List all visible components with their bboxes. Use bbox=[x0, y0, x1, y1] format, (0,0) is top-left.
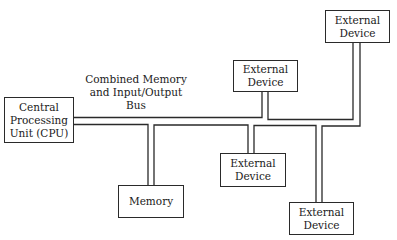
cpu-label-line: Unit (CPU) bbox=[10, 127, 68, 140]
device-label-line: External bbox=[230, 157, 275, 170]
device-label-line: External bbox=[299, 206, 344, 219]
cpu-box: Central Processing Unit (CPU) bbox=[4, 97, 74, 143]
memory-label: Memory bbox=[129, 195, 173, 208]
external-device-lower-middle: External Device bbox=[220, 153, 286, 187]
external-device-top-right: External Device bbox=[325, 10, 390, 43]
external-device-upper-middle: External Device bbox=[233, 60, 298, 92]
cpu-label-line: Processing bbox=[10, 114, 68, 127]
bus-label: Combined Memory and Input/Output Bus bbox=[74, 73, 198, 112]
device-label-line: Device bbox=[299, 219, 344, 232]
device-label-line: Device bbox=[335, 27, 380, 40]
bus-lower-rail-cpu-memory bbox=[74, 125, 148, 186]
bus-label-line: Bus bbox=[74, 99, 198, 112]
bus-outer-rail-right bbox=[322, 43, 360, 202]
memory-box: Memory bbox=[118, 185, 184, 218]
device-label-line: External bbox=[243, 63, 288, 76]
device-label-line: Device bbox=[230, 170, 275, 183]
device-label-line: Device bbox=[243, 76, 288, 89]
device-label-line: External bbox=[335, 14, 380, 27]
bus-label-line: Combined Memory bbox=[74, 73, 198, 86]
external-device-bottom-right: External Device bbox=[289, 202, 354, 235]
cpu-label-line: Central bbox=[10, 101, 68, 114]
bus-label-line: and Input/Output bbox=[74, 86, 198, 99]
